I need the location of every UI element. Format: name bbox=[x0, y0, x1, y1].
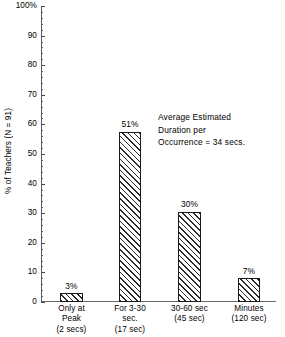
plot-area: 3%51%30%7% bbox=[42, 6, 276, 302]
bar-value-label: 3% bbox=[48, 282, 96, 291]
bar-value-label: 30% bbox=[166, 200, 214, 209]
y-axis-tick-label: 30 bbox=[28, 209, 37, 217]
chart-annotation-line: Average Estimated bbox=[158, 111, 245, 124]
chart-annotation: Average EstimatedDuration perOccurrence … bbox=[158, 111, 245, 149]
bar-value-label: 7% bbox=[225, 267, 273, 276]
bar-chart: % of Teachers (N = 91) 100%9080706050403… bbox=[0, 0, 285, 337]
x-axis-tick-label-line: (17 sec) bbox=[95, 325, 165, 335]
y-axis-tick-label: 50 bbox=[28, 150, 37, 158]
bar bbox=[119, 132, 142, 302]
y-axis-tick-label: 100% bbox=[16, 2, 37, 10]
y-axis-tick-label: 90 bbox=[28, 32, 37, 40]
y-axis-tick-label: 40 bbox=[28, 180, 37, 188]
bar bbox=[178, 212, 201, 302]
y-axis-tick-label: 60 bbox=[28, 120, 37, 128]
y-axis-tick-label: 80 bbox=[28, 61, 37, 69]
x-axis-tick-label: Minutes(120 sec) bbox=[214, 304, 284, 325]
bar-value-label: 51% bbox=[106, 120, 154, 129]
y-axis-tick-label: 10 bbox=[28, 268, 37, 276]
chart-annotation-line: Occurrence = 34 secs. bbox=[158, 136, 245, 149]
chart-annotation-line: Duration per bbox=[158, 124, 245, 137]
y-axis-title-text: % of Teachers (N = 91) bbox=[3, 108, 12, 194]
x-axis-tick-label-line: Minutes bbox=[214, 304, 284, 314]
y-axis-tick-labels: 100%9080706050403020100 bbox=[12, 0, 41, 310]
y-axis-tick-label: 20 bbox=[28, 239, 37, 247]
bar bbox=[238, 278, 261, 302]
bar bbox=[60, 293, 83, 302]
y-axis-tick-label: 70 bbox=[28, 91, 37, 99]
x-axis-tick-labels: Only atPeak(2 secs)For 3-30sec.(17 sec)3… bbox=[42, 304, 276, 337]
x-axis-tick-label-line: (120 sec) bbox=[214, 314, 284, 324]
